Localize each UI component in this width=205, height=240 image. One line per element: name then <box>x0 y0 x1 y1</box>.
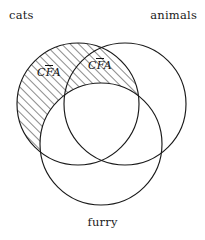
region-label-right: CFA <box>88 59 112 72</box>
region-label-right-prefix: C <box>88 59 97 72</box>
region-label-right-suffix: A <box>104 59 112 72</box>
shaded-region-cats-minus-furry <box>0 0 205 240</box>
region-label-left: CFA <box>37 66 61 79</box>
set-label-animals: animals <box>150 8 197 22</box>
set-label-cats: cats <box>9 8 34 22</box>
set-label-furry: furry <box>0 215 205 229</box>
region-label-left-barred: F <box>46 66 53 79</box>
region-label-right-barred: F <box>97 59 104 72</box>
region-label-left-prefix: C <box>37 66 46 79</box>
venn-diagram-figure: cats animals furry CFA CFA <box>0 0 205 240</box>
venn-diagram-canvas <box>0 0 205 240</box>
region-label-left-suffix: A <box>53 66 61 79</box>
